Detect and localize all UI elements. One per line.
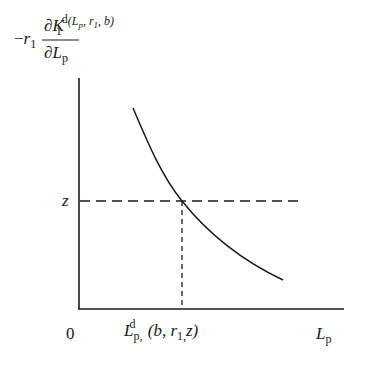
args: (b, r <box>143 321 177 340</box>
l-var: L <box>52 43 61 62</box>
args-sub: p <box>78 20 83 30</box>
y-axis-label-denominator: ∂Lp <box>44 44 68 61</box>
args-sub: 1, <box>177 329 186 343</box>
l-sup: d <box>129 317 135 331</box>
l-sub: p <box>325 332 331 346</box>
args-close: , b) <box>98 14 114 28</box>
k-sub: 1 <box>56 24 62 38</box>
args-open: (L <box>68 14 79 28</box>
origin-label: 0 <box>66 325 75 342</box>
x-axis-label: Lp <box>316 325 331 342</box>
args-r-sub: 1 <box>94 20 99 30</box>
k-args: (Lp, r1, b) <box>68 14 114 28</box>
y-axis-label-numerator: ∂K1d(Lp, r1, b) <box>44 17 114 34</box>
l-sub: p <box>62 51 68 65</box>
z-label: z <box>62 192 69 209</box>
marginal-product-curve <box>133 108 283 280</box>
args-end: z) <box>186 321 198 340</box>
equilibrium-x-label: Lp,d (b, r1,z) <box>124 322 198 339</box>
args-r: , r <box>83 14 94 28</box>
l-sub: p, <box>133 329 142 343</box>
minus-sign: − <box>14 29 24 48</box>
r-sub: 1 <box>30 37 36 51</box>
y-axis-label-prefix: −r1 <box>14 30 36 47</box>
